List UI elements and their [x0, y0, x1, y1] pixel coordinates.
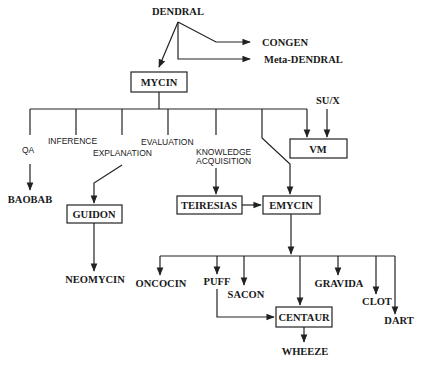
node-vm: VM — [309, 144, 327, 155]
node-teiresias: TEIRESIAS — [181, 200, 237, 211]
family-tree-diagram: DENDRAL CONGEN Meta-DENDRAL MYCIN QA INF… — [0, 0, 423, 365]
label-qa: QA — [22, 145, 35, 155]
node-emycin: EMYCIN — [269, 200, 313, 211]
node-sacon: SACON — [228, 289, 265, 300]
diagram-canvas: DENDRAL CONGEN Meta-DENDRAL MYCIN QA INF… — [0, 0, 423, 365]
label-acquisition: ACQUISITION — [196, 156, 251, 166]
edge-explanation-guidon — [94, 165, 122, 203]
node-baobab: BAOBAB — [8, 194, 52, 205]
edge-mycin-emycin — [262, 109, 290, 194]
node-gravida: GRAVIDA — [315, 278, 364, 289]
node-oncocin: ONCOCIN — [136, 278, 187, 289]
node-dendral: DENDRAL — [152, 6, 204, 17]
label-explanation: EXPLANATION — [93, 148, 152, 158]
node-dart: DART — [384, 315, 413, 326]
label-evaluation: EVALUATION — [141, 137, 194, 147]
node-meta-dendral: Meta-DENDRAL — [264, 54, 343, 65]
edge-dendral-congen — [178, 22, 250, 42]
node-sux: SU/X — [316, 95, 340, 106]
edge-dendral-mycin — [159, 22, 178, 67]
label-inference: INFERENCE — [48, 136, 97, 146]
node-clot: CLOT — [362, 296, 392, 307]
node-guidon: GUIDON — [72, 209, 116, 220]
node-wheeze: WHEEZE — [282, 346, 329, 357]
node-centaur: CENTAUR — [278, 312, 330, 323]
node-mycin: MYCIN — [141, 77, 178, 88]
node-neomycin: NEOMYCIN — [65, 274, 125, 285]
node-puff: PUFF — [204, 276, 231, 287]
node-congen: CONGEN — [262, 37, 309, 48]
